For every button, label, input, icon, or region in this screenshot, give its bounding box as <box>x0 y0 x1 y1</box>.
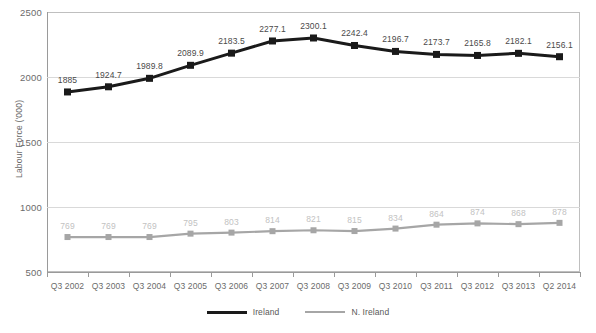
legend-item[interactable]: N. Ireland <box>305 307 389 317</box>
x-axis-tick-label: Q3 2010 <box>375 281 416 291</box>
x-axis-tick <box>170 272 171 277</box>
x-axis-tick-label: Q3 2003 <box>88 281 129 291</box>
y-axis-tick-label: 1000 <box>0 202 42 213</box>
x-axis-tick-label: Q3 2009 <box>334 281 375 291</box>
chart-legend: IrelandN. Ireland <box>0 307 596 317</box>
x-axis-tick <box>211 272 212 277</box>
x-axis-tick <box>539 272 540 277</box>
x-axis-tick <box>334 272 335 277</box>
legend-label: Ireland <box>253 307 280 317</box>
x-axis-line <box>47 272 581 273</box>
x-axis-tick-label: Q3 2011 <box>416 281 457 291</box>
x-axis-tick-label: Q3 2007 <box>252 281 293 291</box>
x-axis-tick <box>88 272 89 277</box>
x-axis-tick-label: Q3 2006 <box>211 281 252 291</box>
y-axis-title: Labour Force ('000) <box>14 100 24 178</box>
data-point-label: 2089.9 <box>167 48 215 58</box>
x-axis-tick-label: Q3 2008 <box>293 281 334 291</box>
y-axis-tick-label: 500 <box>0 267 42 278</box>
x-axis-tick <box>498 272 499 277</box>
data-point-label: 878 <box>536 207 584 217</box>
x-axis-tick-label: Q3 2012 <box>457 281 498 291</box>
x-axis-tick-label: Q3 2002 <box>47 281 88 291</box>
x-axis-tick <box>580 272 581 277</box>
x-axis-tick <box>375 272 376 277</box>
data-point-label: 2183.5 <box>208 36 256 46</box>
legend-swatch <box>305 311 345 313</box>
data-point-label: 2156.1 <box>536 40 584 50</box>
x-axis-tick-label: Q3 2005 <box>170 281 211 291</box>
x-axis-tick <box>47 272 48 277</box>
x-axis-tick <box>293 272 294 277</box>
data-point-label: 1989.8 <box>126 61 174 71</box>
x-axis-tick-label: Q3 2004 <box>129 281 170 291</box>
legend-swatch <box>207 311 247 314</box>
legend-label: N. Ireland <box>351 307 389 317</box>
x-axis-tick <box>416 272 417 277</box>
x-axis-tick <box>457 272 458 277</box>
labour-force-line-chart: 5001000150020002500 Labour Force ('000) … <box>0 0 596 333</box>
x-axis-tick-label: Q3 2013 <box>498 281 539 291</box>
x-axis-tick-label: Q2 2014 <box>539 281 580 291</box>
x-axis-tick <box>129 272 130 277</box>
y-axis-tick-label: 2000 <box>0 72 42 83</box>
x-axis-tick <box>252 272 253 277</box>
legend-item[interactable]: Ireland <box>207 307 280 317</box>
gridline <box>47 142 580 143</box>
y-axis-tick-label: 2500 <box>0 7 42 18</box>
